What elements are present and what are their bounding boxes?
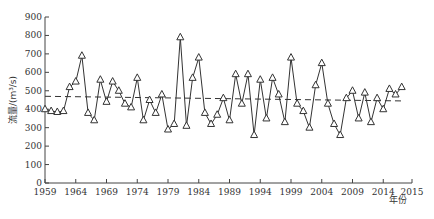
y-tick-label: 800 [25,30,42,40]
triangle-marker-icon [386,85,393,92]
triangle-marker-icon [140,116,147,123]
triangle-marker-icon [306,124,313,131]
triangle-marker-icon [281,118,288,125]
triangle-marker-icon [251,131,258,138]
y-axis-title: 流量/(m³/s) [7,76,18,124]
triangle-marker-icon [78,52,85,59]
x-tick-label: 1989 [218,187,241,197]
triangle-marker-icon [269,74,276,81]
x-tick-label: 1999 [280,187,303,197]
triangle-marker-icon [374,94,381,101]
triangle-marker-icon [189,74,196,81]
flow-line [45,37,402,135]
triangle-marker-icon [288,54,295,61]
triangle-marker-icon [134,74,141,81]
data-series [42,33,406,137]
triangle-marker-icon [171,120,178,127]
triangle-marker-icon [312,81,319,88]
triangle-marker-icon [97,76,104,83]
line-chart: 0100200300400500600700800900195919641969… [0,0,434,219]
triangle-marker-icon [349,87,356,94]
y-tick-label: 200 [25,141,42,151]
triangle-marker-icon [331,120,338,127]
triangle-marker-icon [214,111,221,118]
triangle-marker-icon [42,105,49,112]
x-tick-label: 1959 [34,187,57,197]
triangle-marker-icon [367,118,374,125]
x-tick-label: 2009 [341,187,364,197]
y-tick-label: 600 [25,67,42,77]
triangle-marker-icon [324,100,331,107]
axes: 0100200300400500600700800900195919641969… [25,12,424,197]
triangle-marker-icon [109,78,116,85]
triangle-marker-icon [257,76,264,83]
y-tick-label: 900 [25,12,42,22]
triangle-marker-icon [158,90,165,97]
triangle-marker-icon [244,70,251,77]
x-tick-label: 1984 [187,187,210,197]
triangle-marker-icon [318,59,325,66]
y-tick-label: 500 [25,86,42,96]
x-tick-label: 2004 [310,187,333,197]
triangle-marker-icon [85,109,92,116]
x-tick-label: 1994 [249,187,272,197]
x-tick-label: 1964 [64,187,87,197]
triangle-marker-icon [152,109,159,116]
triangle-marker-icon [220,94,227,101]
triangle-marker-icon [398,83,405,90]
triangle-marker-icon [146,96,153,103]
triangle-marker-icon [294,100,301,107]
triangle-marker-icon [355,114,362,121]
triangle-marker-icon [195,54,202,61]
triangle-marker-icon [183,122,190,129]
x-tick-label: 1974 [126,187,149,197]
triangle-marker-icon [380,105,387,112]
triangle-marker-icon [177,33,184,40]
x-tick-label: 1979 [157,187,180,197]
triangle-marker-icon [121,100,128,107]
triangle-marker-icon [232,70,239,77]
triangle-marker-icon [60,107,67,114]
triangle-marker-icon [103,98,110,105]
y-tick-label: 300 [25,123,42,133]
triangle-marker-icon [275,90,282,97]
y-tick-label: 700 [25,49,42,59]
triangle-marker-icon [201,109,208,116]
triangle-marker-icon [72,78,79,85]
triangle-marker-icon [337,131,344,138]
triangle-marker-icon [238,100,245,107]
triangle-marker-icon [263,114,270,121]
y-tick-label: 100 [25,160,42,170]
x-axis-title: 年份 [389,194,407,205]
x-tick-label: 1969 [95,187,118,197]
triangle-marker-icon [361,89,368,96]
y-tick-label: 400 [25,104,42,114]
triangle-marker-icon [226,116,233,123]
